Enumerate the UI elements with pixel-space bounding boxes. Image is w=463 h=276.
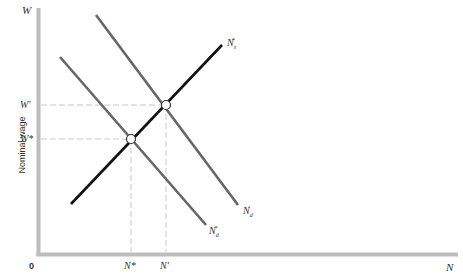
y-axis-symbol: W xyxy=(22,5,31,16)
y-tick-w-prime: W′ xyxy=(20,100,31,110)
label-labor-supply: Ns* xyxy=(227,37,235,50)
y-axis-title: Nominal wage xyxy=(17,115,27,175)
x-tick-n-star: N* xyxy=(124,261,136,271)
equilibrium-point-new xyxy=(162,101,171,110)
y-tick-w-star: W* xyxy=(20,134,33,144)
equilibrium-point-initial xyxy=(127,135,136,144)
x-tick-n-prime: N′ xyxy=(160,261,169,271)
label-labor-demand-initial: Nd* xyxy=(209,225,218,238)
label-labor-demand-new: Nd′ xyxy=(243,205,250,218)
x-axis-symbol: N xyxy=(446,262,453,273)
labor-supply-curve xyxy=(71,45,222,204)
origin-label: 0 xyxy=(29,261,34,271)
